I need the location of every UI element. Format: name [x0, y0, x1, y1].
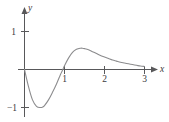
function-curve [25, 48, 145, 107]
y-axis-label: y [27, 3, 33, 13]
x-tick-label-2: 2 [102, 74, 107, 84]
x-tick-label-1: 1 [62, 74, 67, 84]
x-axis-label: x [159, 64, 165, 74]
x-axis-arrowhead [151, 67, 158, 73]
x-tick-label-3: 3 [142, 74, 147, 84]
y-tick-label-pos1: 1 [11, 27, 16, 37]
plot-svg: 1 2 3 1 −1 x y [0, 0, 169, 122]
y-axis-arrowhead [22, 7, 28, 14]
y-tick-label-neg1: −1 [7, 103, 17, 113]
graph-figure: 1 2 3 1 −1 x y [0, 0, 169, 122]
